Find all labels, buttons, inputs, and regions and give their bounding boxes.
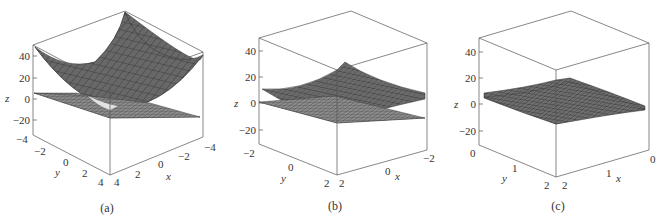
- x-tick-label: 2: [135, 168, 141, 180]
- z-tick-label: 20: [245, 71, 257, 83]
- x-tick-label: 0: [158, 158, 164, 170]
- z-axis-ticks: [33, 56, 37, 120]
- plot-c: 40 20 0 −20 z 0 1 2 y 2 1 0 x (c): [430, 0, 662, 219]
- z-tick-label: −20: [13, 114, 31, 126]
- x-tick-label: 2: [562, 179, 568, 191]
- y-tick-label: 0: [288, 161, 294, 173]
- y-tick-label: 2: [324, 177, 330, 189]
- y-tick-label: 1: [512, 162, 518, 174]
- x-axis-label: x: [615, 172, 621, 184]
- y-tick-label: −2: [34, 145, 46, 157]
- y-tick-label: −2: [243, 147, 255, 159]
- z-tick-label: 40: [245, 45, 257, 57]
- z-tick-label: −20: [239, 124, 257, 136]
- y-axis-label: y: [501, 172, 507, 184]
- z-tick-label: 20: [19, 72, 31, 84]
- y-axis-label: y: [280, 172, 286, 184]
- z-tick-label: 0: [251, 97, 257, 109]
- plot-c-canvas: 40 20 0 −20 z 0 1 2 y 2 1 0 x (c): [430, 0, 662, 219]
- x-tick-label: 0: [650, 153, 656, 165]
- y-tick-label: 2: [82, 167, 88, 179]
- plot-b: 40 20 0 −20 z −2 0 2 y 2 0 −2 x (b): [215, 0, 440, 219]
- tangent-plane: [484, 82, 645, 124]
- caption: (a): [100, 201, 113, 215]
- plot-a: 40 20 0 −20 z −4 −2 0 2 4 y 4 2 0 −2 −4 …: [0, 0, 225, 219]
- x-tick-label: 4: [114, 176, 120, 188]
- plot-a-canvas: 40 20 0 −20 z −4 −2 0 2 4 y 4 2 0 −2 −4 …: [0, 0, 225, 219]
- figure: 40 20 0 −20 z −4 −2 0 2 4 y 4 2 0 −2 −4 …: [0, 0, 662, 219]
- z-tick-label: 20: [465, 72, 477, 84]
- z-tick-label: 40: [465, 46, 477, 58]
- z-tick-label: 40: [19, 50, 31, 62]
- y-tick-label: 4: [98, 176, 104, 188]
- z-tick-label: 0: [25, 93, 31, 105]
- caption: (c): [551, 199, 564, 213]
- z-axis-ticks: [259, 51, 263, 130]
- z-tick-label: −20: [459, 125, 477, 137]
- z-axis-label: z: [233, 97, 239, 109]
- y-tick-label: 2: [544, 179, 550, 191]
- x-axis-label: x: [394, 170, 400, 182]
- y-tick-label: 0: [470, 147, 476, 159]
- y-axis-label: y: [54, 166, 60, 178]
- x-tick-label: 2: [339, 177, 345, 189]
- x-axis-label: x: [165, 170, 171, 182]
- x-tick-label: 1: [606, 167, 612, 179]
- z-axis-label: z: [4, 92, 10, 104]
- z-tick-label: 0: [471, 98, 477, 110]
- caption: (b): [328, 199, 342, 213]
- x-tick-label: −2: [178, 150, 190, 162]
- plot-b-canvas: 40 20 0 −20 z −2 0 2 y 2 0 −2 x (b): [215, 0, 440, 219]
- y-tick-label: 0: [63, 156, 69, 168]
- z-axis-ticks: [479, 52, 483, 131]
- x-tick-label: 0: [385, 165, 391, 177]
- z-axis-label: z: [453, 98, 459, 110]
- y-tick-label: −4: [16, 133, 28, 145]
